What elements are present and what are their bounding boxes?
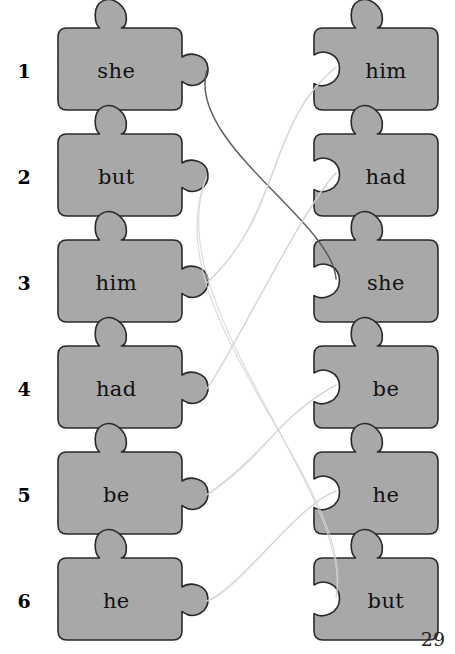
connector-line-but-2-to-6[interactable] — [198, 177, 337, 597]
connector-line-had-4-to-2[interactable] — [207, 173, 336, 389]
row-number-2: 2 — [17, 166, 30, 188]
worksheet-page: shehim1buthad2himshe3hadbe4behe5hebut6 2… — [0, 0, 455, 654]
row-number-4: 4 — [17, 378, 30, 400]
row-number-5: 5 — [17, 484, 30, 506]
row-number-3: 3 — [17, 272, 30, 294]
connector-line-but-2-to-6[interactable] — [197, 177, 338, 597]
connector-line-she-1-to-3[interactable] — [205, 71, 336, 279]
page-number: 29 — [421, 628, 445, 650]
connector-lines-layer — [0, 0, 455, 654]
connector-line-be-5-to-4[interactable] — [207, 385, 336, 495]
connector-line-be-5-to-4[interactable] — [207, 385, 336, 495]
connector-line-him-3-to-1[interactable] — [207, 67, 336, 283]
row-number-6: 6 — [17, 590, 30, 612]
row-number-1: 1 — [17, 60, 30, 82]
connector-line-he-6-to-5[interactable] — [207, 491, 336, 601]
connector-line-he-6-to-5[interactable] — [207, 491, 336, 601]
